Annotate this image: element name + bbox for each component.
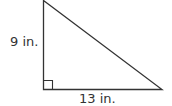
right-triangle	[44, 1, 163, 90]
horizontal-leg-label: 13 in.	[79, 91, 116, 106]
vertical-leg-label: 9 in.	[10, 34, 38, 49]
right-angle-marker	[44, 81, 53, 90]
